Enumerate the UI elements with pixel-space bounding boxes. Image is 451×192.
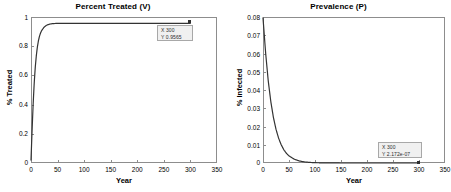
xtick-label: 0 — [22, 166, 40, 173]
datatip-box[interactable]: X 300 Y 0.9565 — [157, 25, 193, 41]
xtick-label: 0 — [254, 166, 272, 173]
xtick-label: 50 — [280, 166, 298, 173]
xtick-label: 50 — [49, 166, 67, 173]
chart-title: Percent Treated (V) — [0, 2, 226, 12]
datatip-box[interactable]: X 300 Y 2.172e-07 — [378, 142, 422, 158]
ytick-label: 0.2 — [10, 130, 28, 137]
chart-panel-percent-treated: Percent Treated (V) 1 0.8 0.6 0.4 0.2 0 … — [0, 0, 226, 192]
ytick-label: 0.8 — [10, 42, 28, 49]
ytick-label: 0.06 — [234, 51, 260, 58]
xtick-label: 150 — [102, 166, 120, 173]
y-axis-label: % Treated — [5, 58, 14, 118]
xtick-label: 350 — [436, 166, 451, 173]
ytick-label: 0.08 — [234, 14, 260, 21]
datatip-y-value: Y 0.9565 — [161, 34, 190, 41]
figure-canvas: Percent Treated (V) 1 0.8 0.6 0.4 0.2 0 … — [0, 0, 451, 192]
xtick-label: 200 — [358, 166, 376, 173]
ytick-label: 0.02 — [234, 124, 260, 131]
ytick-label: 1 — [10, 14, 28, 21]
xtick-label: 100 — [75, 166, 93, 173]
xtick-label: 300 — [410, 166, 428, 173]
xtick-label: 300 — [181, 166, 199, 173]
datatip-y-value: Y 2.172e-07 — [382, 151, 419, 158]
xtick-label: 100 — [306, 166, 324, 173]
y-axis-label: % Infected — [235, 58, 244, 118]
datatip-marker[interactable] — [417, 161, 420, 164]
x-axis-label: Year — [31, 176, 217, 185]
xtick-label: 250 — [155, 166, 173, 173]
xtick-label: 150 — [332, 166, 350, 173]
xtick-label: 250 — [384, 166, 402, 173]
ytick-label: 0.07 — [234, 32, 260, 39]
xtick-label: 350 — [208, 166, 226, 173]
x-axis-label: Year — [263, 176, 445, 185]
chart-panel-prevalence: Prevalence (P) 0.08 0.07 0.06 0.05 0.04 … — [226, 0, 451, 192]
chart-title: Prevalence (P) — [226, 2, 451, 12]
ytick-label: 0 — [234, 159, 260, 166]
ytick-label: 0 — [10, 159, 28, 166]
ytick-label: 0.01 — [234, 142, 260, 149]
datatip-marker[interactable] — [188, 20, 191, 23]
xtick-label: 200 — [128, 166, 146, 173]
